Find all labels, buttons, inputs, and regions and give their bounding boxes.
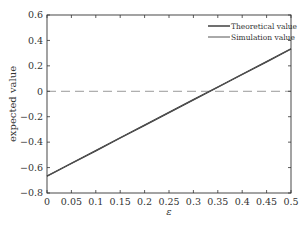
y-tick-label: 0.4 <box>28 35 43 46</box>
x-tick-label: 0.5 <box>283 196 298 207</box>
legend: Theoretical valueSimulation value <box>208 22 298 42</box>
x-tick-label: 0.35 <box>207 196 228 207</box>
x-tick-label: 0.1 <box>88 196 103 207</box>
y-axis-label: expected value <box>7 66 18 142</box>
y-tick-label: −0.6 <box>20 162 43 173</box>
y-tick-label: −0.4 <box>20 136 43 147</box>
legend-label: Simulation value <box>231 33 295 42</box>
y-tick-label: 0.2 <box>28 60 43 71</box>
y-tick-label: 0.6 <box>28 9 43 20</box>
line-chart: 00.050.10.150.20.250.30.350.40.450.5 0.6… <box>0 0 306 225</box>
x-tick-label: 0.3 <box>186 196 201 207</box>
x-tick-label: 0.4 <box>235 196 250 207</box>
series-line-1 <box>47 49 291 176</box>
axes-frame <box>47 15 291 193</box>
x-tick-label: 0.2 <box>137 196 152 207</box>
legend-label: Theoretical value <box>231 22 298 31</box>
series-lines <box>47 49 291 176</box>
y-tick-label: 0 <box>37 86 43 97</box>
y-tick-label: −0.2 <box>20 111 43 122</box>
x-tick-label: 0.45 <box>256 196 277 207</box>
x-tick-label: 0 <box>44 196 50 207</box>
y-tick-label: −0.8 <box>20 187 43 198</box>
x-tick-label: 0.15 <box>110 196 131 207</box>
x-tick-label: 0.05 <box>61 196 82 207</box>
x-axis-label: ε <box>166 206 171 217</box>
